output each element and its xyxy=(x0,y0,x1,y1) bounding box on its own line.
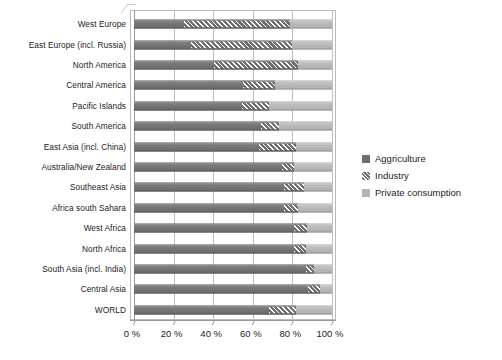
bar-segment-agriculture xyxy=(134,285,308,294)
bar-segment-agriculture xyxy=(134,244,294,253)
category-label: South America xyxy=(0,122,126,131)
bar-segment-private-consumption xyxy=(298,61,332,70)
bar-row xyxy=(134,244,332,253)
category-label: Pacific Islands xyxy=(0,101,126,110)
bar-row xyxy=(134,40,332,49)
x-axis-tick-mark xyxy=(212,320,215,325)
bar-segment-industry xyxy=(282,163,295,172)
bar-segment-agriculture xyxy=(134,101,242,110)
bar-segment-agriculture xyxy=(134,81,243,90)
bar-segment-agriculture xyxy=(134,20,184,29)
bar-segment-private-consumption xyxy=(314,265,332,274)
bar-segment-industry xyxy=(284,183,304,192)
bar-segment-industry xyxy=(191,40,292,49)
category-label: South Asia (incl. India) xyxy=(0,265,126,274)
chart-legend: AggricultureIndustryPrivate consumption xyxy=(362,150,494,201)
bar-segment-industry xyxy=(214,61,298,70)
bar-segment-industry xyxy=(269,305,297,314)
category-label: Southeast Asia xyxy=(0,183,126,192)
bar-row xyxy=(134,142,332,151)
category-axis-labels: West EuropeEast Europe (incl. Russia)Nor… xyxy=(0,14,126,320)
category-label: West Africa xyxy=(0,224,126,233)
legend-label: Industry xyxy=(375,170,409,181)
gridline xyxy=(332,10,333,320)
bar-segment-industry xyxy=(294,224,307,233)
bar-segment-agriculture xyxy=(134,183,284,192)
bar-row xyxy=(134,122,332,131)
category-label: West Europe xyxy=(0,20,126,29)
water-use-by-sector-stacked-bar-chart: West EuropeEast Europe (incl. Russia)Nor… xyxy=(0,0,502,360)
legend-item[interactable]: Private consumption xyxy=(362,184,494,201)
bar-segment-agriculture xyxy=(134,163,282,172)
bar-segment-agriculture xyxy=(134,203,284,212)
x-axis-tick-mark xyxy=(173,320,176,325)
category-label: Africa south Sahara xyxy=(0,203,126,212)
bar-segment-private-consumption xyxy=(292,40,332,49)
x-axis-tick-mark xyxy=(133,320,136,325)
category-label: East Asia (incl. China) xyxy=(0,142,126,151)
legend-item[interactable]: Aggriculture xyxy=(362,150,494,167)
bar-segment-agriculture xyxy=(134,265,306,274)
bar-segment-industry xyxy=(308,285,320,294)
x-axis-tick-label: 20 % xyxy=(161,328,183,339)
bar-segment-private-consumption xyxy=(320,285,332,294)
bar-segment-agriculture xyxy=(134,224,294,233)
bar-row xyxy=(134,183,332,192)
category-label: Australia/New Zealand xyxy=(0,163,126,172)
legend-swatch-private-consumption-icon xyxy=(362,189,370,197)
plot-area xyxy=(134,14,332,320)
bar-segment-agriculture xyxy=(134,305,269,314)
legend-item[interactable]: Industry xyxy=(362,167,494,184)
legend-label: Private consumption xyxy=(375,187,461,198)
bar-segment-industry xyxy=(243,81,275,90)
bar-segment-agriculture xyxy=(134,40,191,49)
bar-segment-industry xyxy=(294,244,306,253)
bar-row xyxy=(134,203,332,212)
bar-row xyxy=(134,265,332,274)
bar-segment-industry xyxy=(242,101,269,110)
category-label: East Europe (incl. Russia) xyxy=(0,40,126,49)
legend-label: Aggriculture xyxy=(375,153,426,164)
bar-segment-industry xyxy=(184,20,291,29)
x-axis-tick-label: 100 % xyxy=(317,328,344,339)
x-axis-tick-mark xyxy=(291,320,294,325)
bar-segment-private-consumption xyxy=(269,101,332,110)
legend-swatch-industry-icon xyxy=(362,172,370,180)
bar-segment-private-consumption xyxy=(294,163,332,172)
bar-row xyxy=(134,81,332,90)
bar-row xyxy=(134,224,332,233)
bar-segment-private-consumption xyxy=(279,122,332,131)
bar-row xyxy=(134,163,332,172)
bar-segment-private-consumption xyxy=(304,183,332,192)
x-axis-tick-label: 80 % xyxy=(280,328,302,339)
bar-segment-private-consumption xyxy=(275,81,332,90)
bar-segment-private-consumption xyxy=(306,244,332,253)
x-axis-tick-mark xyxy=(252,320,255,325)
category-label: North Africa xyxy=(0,244,126,253)
bar-segment-private-consumption xyxy=(296,142,332,151)
legend-swatch-agriculture-icon xyxy=(362,155,370,163)
bar-row xyxy=(134,305,332,314)
category-label: Central Asia xyxy=(0,285,126,294)
bar-segment-industry xyxy=(306,265,314,274)
x-axis-tick-label: 60 % xyxy=(240,328,262,339)
bar-segment-agriculture xyxy=(134,61,214,70)
category-label: North America xyxy=(0,61,126,70)
x-axis-tick-mark xyxy=(331,320,334,325)
bar-segment-agriculture xyxy=(134,142,259,151)
category-label: WORLD xyxy=(0,305,126,314)
bar-segment-industry xyxy=(284,203,298,212)
bar-segment-private-consumption xyxy=(296,305,332,314)
bar-segment-industry xyxy=(261,122,279,131)
x-axis-tick-label: 40 % xyxy=(200,328,222,339)
bar-row xyxy=(134,20,332,29)
bar-segment-agriculture xyxy=(134,122,261,131)
bar-row xyxy=(134,61,332,70)
bar-segment-private-consumption xyxy=(298,203,332,212)
bar-row xyxy=(134,285,332,294)
category-label: Central America xyxy=(0,81,126,90)
bar-segment-private-consumption xyxy=(307,224,332,233)
x-axis-tick-labels: 0 %20 %40 %60 %80 %100 % xyxy=(134,320,332,342)
x-axis-tick-label: 0 % xyxy=(124,328,140,339)
bar-segment-industry xyxy=(259,142,297,151)
